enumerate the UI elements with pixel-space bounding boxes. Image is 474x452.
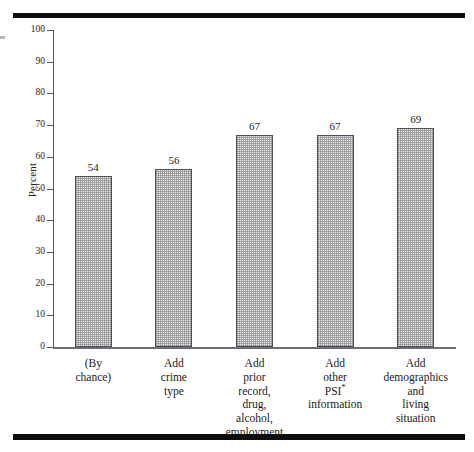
y-tick-mark bbox=[47, 30, 53, 31]
y-tick-label: 100 bbox=[31, 25, 45, 35]
scan-edge-mark bbox=[0, 36, 5, 39]
y-tick-label: 90 bbox=[36, 57, 46, 66]
bar bbox=[397, 128, 434, 347]
bar bbox=[155, 169, 192, 347]
y-tick-mark bbox=[47, 157, 53, 158]
y-tick-label: 40 bbox=[36, 215, 46, 225]
y-tick-label: 20 bbox=[36, 279, 46, 289]
bar-value-label: 54 bbox=[88, 162, 99, 173]
chart-plot-area: Percent 1009080706050403020100 545667676… bbox=[53, 30, 456, 348]
x-axis-line bbox=[53, 347, 456, 349]
y-tick-mark bbox=[47, 284, 53, 285]
y-tick-mark bbox=[47, 125, 53, 126]
bar-value-label: 69 bbox=[410, 114, 421, 125]
y-tick-label: 70 bbox=[36, 120, 46, 130]
bar bbox=[236, 135, 273, 347]
x-category-label: Adddemographicsandlivingsituation bbox=[367, 357, 464, 426]
bar bbox=[75, 176, 112, 347]
y-tick-mark bbox=[47, 93, 53, 94]
bar-value-label: 56 bbox=[168, 155, 179, 166]
y-tick-label: 60 bbox=[36, 152, 46, 162]
y-tick-mark bbox=[47, 189, 53, 190]
y-tick-mark bbox=[47, 347, 53, 348]
y-tick-label: 50 bbox=[36, 184, 46, 194]
y-tick-label: 30 bbox=[36, 247, 46, 257]
y-tick-mark bbox=[47, 252, 53, 253]
bottom-rule bbox=[13, 434, 465, 440]
y-tick-mark bbox=[47, 220, 53, 221]
y-tick-label: 80 bbox=[36, 88, 46, 98]
y-tick-label: 0 bbox=[40, 342, 45, 352]
y-tick-label: 10 bbox=[36, 310, 46, 320]
y-tick-mark bbox=[47, 315, 53, 316]
bar bbox=[317, 135, 354, 347]
top-rule bbox=[13, 13, 465, 18]
bar-value-label: 67 bbox=[249, 121, 260, 132]
y-axis-line bbox=[53, 30, 54, 348]
bar-value-label: 67 bbox=[330, 121, 341, 132]
y-tick-mark bbox=[47, 62, 53, 63]
